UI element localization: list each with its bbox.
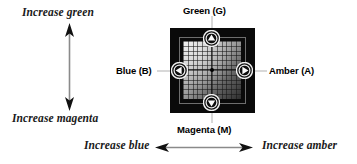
color-grid[interactable] [183, 41, 241, 99]
axis-label-increase-magenta: Increase magenta [12, 112, 98, 124]
vertical-double-arrow [64, 23, 75, 111]
knob-magenta[interactable] [203, 94, 220, 111]
axis-label-increase-green: Increase green [22, 6, 94, 18]
axis-label-increase-amber: Increase amber [262, 139, 337, 151]
knob-green[interactable] [203, 30, 220, 47]
knob-label-green: Green (G) [183, 5, 226, 16]
grid-center-marker [210, 68, 214, 72]
knob-label-blue: Blue (B) [116, 65, 152, 76]
knob-label-magenta: Magenta (M) [177, 124, 231, 135]
knob-blue[interactable] [171, 62, 188, 79]
axis-label-increase-blue: Increase blue [84, 139, 150, 151]
leader-line-blue [157, 70, 171, 72]
knob-amber[interactable] [236, 62, 253, 79]
diagram-root: Increase green Increase magenta Increase… [0, 0, 357, 164]
leader-line-amber [253, 70, 267, 72]
fine-tuning-panel[interactable] [170, 28, 255, 113]
knob-label-amber: Amber (A) [269, 65, 314, 76]
horizontal-double-arrow [155, 142, 253, 153]
